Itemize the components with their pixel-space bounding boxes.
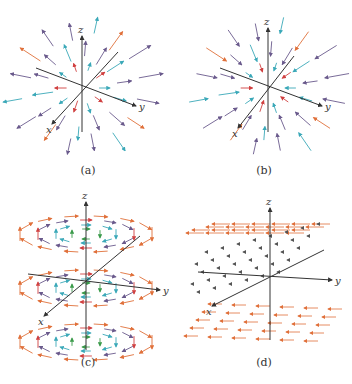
vector-arrow <box>38 301 52 304</box>
vector-arrow <box>279 115 285 129</box>
vector-arrow <box>250 45 257 62</box>
vector-arrow <box>59 98 67 104</box>
vector-arrow <box>225 108 237 116</box>
vector-arrow <box>94 17 98 33</box>
vector-arrow <box>206 48 226 61</box>
vector-arrow <box>243 116 252 130</box>
vector-arrow <box>64 324 78 325</box>
vector-arrow <box>17 117 36 129</box>
caption-c: (c) <box>0 356 176 369</box>
vector-arrow <box>274 63 277 71</box>
axes <box>36 36 136 132</box>
vector-arrow <box>104 299 116 301</box>
vector-arrow <box>122 346 132 351</box>
panel-c: zyx (c) <box>0 192 176 384</box>
vector-arrow <box>87 103 90 113</box>
z-axis-label: z <box>263 16 270 27</box>
vector-arrow <box>103 293 112 296</box>
vector-arrow <box>94 305 108 306</box>
vector-arrow <box>281 97 288 102</box>
vector-arrow <box>253 139 256 155</box>
vector-arrow <box>104 245 116 247</box>
z-axis-label: z <box>265 196 272 207</box>
vector-arrow <box>64 305 78 306</box>
vector-arrow <box>104 353 116 355</box>
vector-arrow <box>42 30 53 46</box>
vector-arrow <box>20 223 32 230</box>
x-axis-label: x <box>232 128 238 139</box>
vector-arrow <box>245 98 253 104</box>
vector-arrow <box>139 238 151 245</box>
x-axis-label: x <box>206 306 212 317</box>
vector-arrow <box>120 326 134 329</box>
vector-arrow <box>103 334 112 337</box>
y-axis-label: y <box>162 285 169 296</box>
vector-arrow <box>20 292 32 299</box>
vector-arrow <box>120 272 134 275</box>
vector-arrow <box>273 103 276 113</box>
vector-arrow <box>39 292 49 297</box>
vector-arrow <box>293 61 309 72</box>
caption-b: (b) <box>176 164 352 177</box>
vector-arrow <box>230 55 241 65</box>
vector-arrow <box>94 216 108 217</box>
vector-arrow <box>113 133 125 151</box>
vector-arrow <box>295 32 308 51</box>
vector-arrow <box>20 277 32 284</box>
axes <box>220 28 322 132</box>
vector-arrow <box>255 24 258 41</box>
panel-a: zyx (a) <box>0 0 176 192</box>
x-axis-label: x <box>46 124 52 135</box>
vector-arrow <box>122 292 132 297</box>
vector-arrow <box>88 63 91 71</box>
vector-arrow <box>56 329 68 331</box>
vector-arrow <box>128 118 145 129</box>
axes <box>198 208 332 340</box>
vector-arrow <box>10 74 31 78</box>
vector-arrow <box>282 48 292 65</box>
vector-arrow <box>117 81 132 83</box>
vector-arrow <box>139 277 151 284</box>
y-axis-label: y <box>324 101 331 112</box>
vector-arrow <box>56 245 68 247</box>
vector-arrow <box>34 74 48 78</box>
vector-arrow <box>39 108 51 116</box>
vector-arrow <box>104 221 116 223</box>
vector-arrow <box>139 223 151 230</box>
vector-arrow <box>120 301 134 304</box>
vector-arrow <box>189 99 208 102</box>
vector-arrow <box>220 74 234 78</box>
vector-arrow <box>94 324 108 325</box>
vector-arrow <box>39 346 49 351</box>
vector-arrow <box>39 332 49 337</box>
vector-arrow <box>38 218 52 221</box>
axes <box>28 202 160 350</box>
panel-b: zyx (b) <box>176 0 352 192</box>
vector-arrow <box>96 72 104 78</box>
vector-arrow <box>67 139 70 155</box>
vector-arrow <box>39 224 49 229</box>
vector-arrow <box>38 247 52 250</box>
vector-arrow <box>60 280 69 283</box>
caption-a: (a) <box>0 164 176 177</box>
vector-arrow <box>91 134 94 151</box>
vector-arrow <box>122 332 132 337</box>
vector-arrow <box>315 45 337 58</box>
vector-arrow <box>20 238 32 245</box>
vector-arrow <box>139 346 151 353</box>
vector-arrow <box>103 226 112 229</box>
vector-arrow <box>103 280 112 283</box>
vector-arrow <box>74 101 78 112</box>
vector-arrow <box>271 41 272 56</box>
vector-arrow <box>44 55 55 65</box>
vector-arrow <box>60 239 69 242</box>
vector-arrow <box>139 74 163 78</box>
vector-arrow <box>280 17 284 33</box>
vector-arrow <box>107 61 123 72</box>
vector-arrow <box>64 251 78 252</box>
vector-arrow <box>314 118 331 129</box>
vector-arrow <box>299 133 311 151</box>
vector-arrow <box>120 218 134 221</box>
vector-arrow <box>60 347 69 350</box>
vector-arrow <box>96 48 106 65</box>
